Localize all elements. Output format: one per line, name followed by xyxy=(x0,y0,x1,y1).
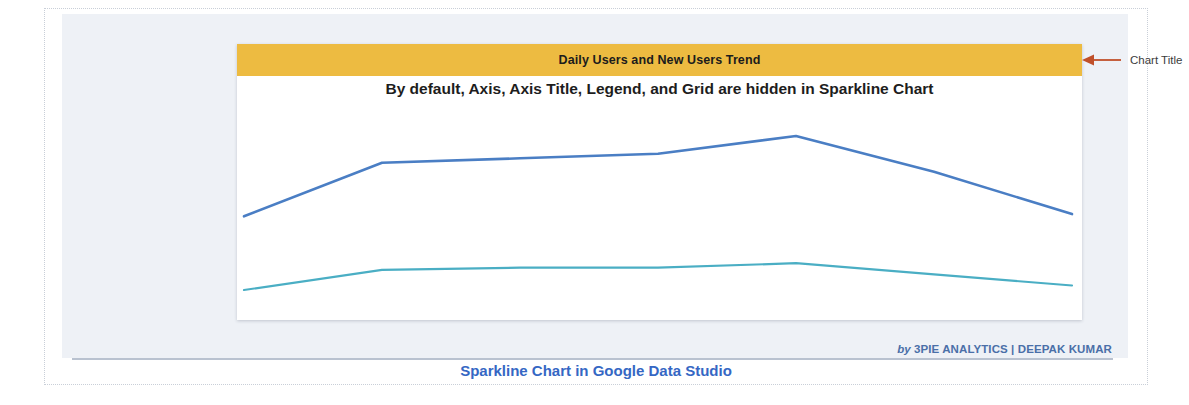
annotation-chart-title: Chart Title xyxy=(1082,47,1182,73)
left-arrow-icon xyxy=(1082,53,1122,67)
sparkline-plot-area xyxy=(237,106,1082,320)
bottom-separator xyxy=(72,358,1113,360)
slide-panel: Daily Users and New Users Trend By defau… xyxy=(62,14,1128,358)
slide-caption: Sparkline Chart in Google Data Studio xyxy=(44,362,1148,379)
chart-title: Daily Users and New Users Trend xyxy=(559,53,761,67)
chart-subtitle: By default, Axis, Axis Title, Legend, an… xyxy=(237,80,1082,98)
credit-line: by 3PIE ANALYTICS | DEEPAK KUMAR xyxy=(897,343,1112,355)
credit-prefix: by xyxy=(897,343,910,355)
series-line-daily-users xyxy=(244,136,1072,216)
chart-title-band: Daily Users and New Users Trend xyxy=(237,44,1082,76)
series-line-new-users xyxy=(244,263,1072,290)
sparkline-chart-card[interactable]: Daily Users and New Users Trend By defau… xyxy=(237,44,1082,320)
credit-author: 3PIE ANALYTICS | DEEPAK KUMAR xyxy=(914,343,1112,355)
annotation-label: Chart Title xyxy=(1130,54,1182,66)
